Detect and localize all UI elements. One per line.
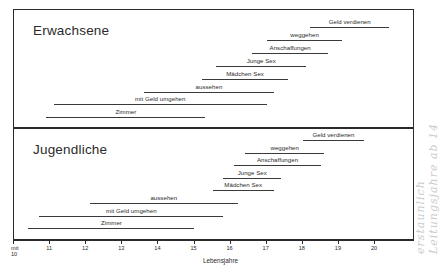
axis-tick-label-20: 20 (371, 245, 377, 251)
axis-tick-18 (302, 240, 303, 244)
axis-title: Lebensjahre (0, 257, 441, 264)
axis-tick-label-prefix: mit (11, 245, 18, 251)
axis-tick-label-11: 11 (46, 245, 52, 251)
x-axis: mit1011121314151617181920 Lebensjahre (0, 0, 441, 273)
chart-figure: Erwachsene Geld verdienenweggehenAnschaf… (0, 0, 441, 273)
axis-tick-label-14: 14 (154, 245, 160, 251)
axis-tick-16 (230, 240, 231, 244)
axis-tick-14 (157, 240, 158, 244)
axis-tick-10 (13, 240, 14, 244)
axis-tick-12 (85, 240, 86, 244)
axis-tick-17 (266, 240, 267, 244)
axis-tick-11 (49, 240, 50, 244)
axis-tick-label-12: 12 (82, 245, 88, 251)
axis-line (13, 240, 414, 241)
axis-tick-label-17: 17 (263, 245, 269, 251)
axis-tick-label-18: 18 (299, 245, 305, 251)
axis-tick-19 (338, 240, 339, 244)
axis-tick-label-16: 16 (226, 245, 232, 251)
axis-tick-15 (194, 240, 195, 244)
axis-tick-label-19: 19 (335, 245, 341, 251)
axis-tick-label-15: 15 (190, 245, 196, 251)
axis-tick-13 (121, 240, 122, 244)
axis-tick-label-13: 13 (118, 245, 124, 251)
axis-tick-20 (374, 240, 375, 244)
axis-tick-label-10: mit10 (11, 245, 18, 257)
